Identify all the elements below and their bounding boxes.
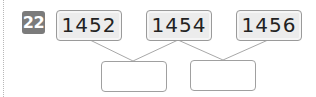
- answer-box-2[interactable]: [190, 60, 256, 91]
- number-box-1: 1452: [56, 10, 122, 41]
- number-box-2: 1454: [146, 10, 212, 41]
- answer-box-1[interactable]: [101, 61, 167, 92]
- number-box-3: 1456: [236, 10, 302, 41]
